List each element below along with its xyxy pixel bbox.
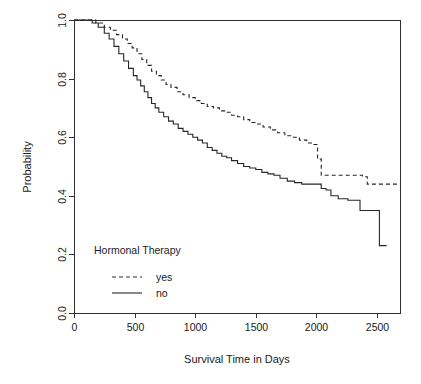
series-group xyxy=(74,20,400,246)
x-tick-label: 2000 xyxy=(305,321,329,333)
y-tick-label: 0.2 xyxy=(56,247,68,262)
y-axis-title: Probability xyxy=(21,141,33,193)
y-axis: 0.00.20.40.60.81.0 xyxy=(56,13,74,321)
x-tick-label: 2500 xyxy=(366,321,390,333)
y-tick-label: 1.0 xyxy=(56,13,68,28)
y-tick-label: 0.8 xyxy=(56,72,68,87)
x-tick-label: 0 xyxy=(72,321,78,333)
survival-curve-chart: 0.00.20.40.60.81.0 05001000150020002500 … xyxy=(0,0,421,384)
x-tick-label: 500 xyxy=(127,321,145,333)
survival-curve-yes xyxy=(74,20,400,184)
x-tick-label: 1500 xyxy=(245,321,269,333)
x-axis-title: Survival Time in Days xyxy=(184,353,290,365)
legend-label-no: no xyxy=(156,287,168,299)
x-tick-label: 1000 xyxy=(184,321,208,333)
survival-curve-no xyxy=(74,20,387,246)
y-tick-label: 0.4 xyxy=(56,189,68,204)
plot-frame xyxy=(75,21,401,314)
y-tick-label: 0.6 xyxy=(56,130,68,145)
legend-label-yes: yes xyxy=(156,271,172,283)
legend-title: Hormonal Therapy xyxy=(94,244,182,256)
y-tick-label: 0.0 xyxy=(56,306,68,321)
x-axis: 05001000150020002500 xyxy=(72,313,390,333)
km-plot-svg: 0.00.20.40.60.81.0 05001000150020002500 … xyxy=(0,0,421,384)
chart-legend: Hormonal Therapy yes no xyxy=(94,244,182,299)
